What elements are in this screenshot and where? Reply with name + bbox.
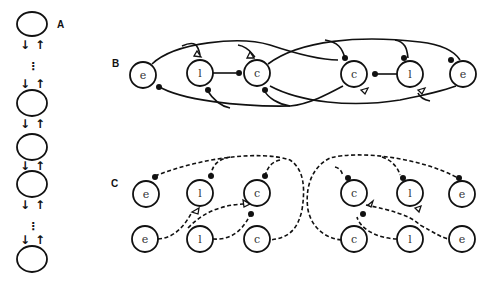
node-c-bottom-5: e [449,226,475,252]
up-arrow-icon: ↑ [35,198,45,212]
panel-b: B e l c c l e [112,39,476,108]
ellipsis-icon: ⋮ [28,220,39,233]
panel-c-label: C [111,178,118,189]
edge [152,41,338,64]
inhibitory-terminal-icon [236,70,242,76]
inhibitory-terminal-icon [205,87,211,93]
svg-text:e: e [142,233,149,246]
diagram-canvas: A ↓ ↑ ⋮ ↓ ↑ ↓ ↑ ↓ ↑ ↓ ↑ ⋮ ↓ ↑ B [0,0,493,281]
panel-a: A ↓ ↑ ⋮ ↓ ↑ ↓ ↑ ↓ ↑ ↓ ↑ ⋮ ↓ ↑ [17,12,64,272]
svg-text:l: l [408,233,412,246]
chain-node-3 [17,134,47,160]
edge [207,90,230,108]
edge [268,39,460,64]
edge [265,160,280,176]
excitatory-terminal-icon [418,88,425,94]
panel-b-label: B [112,58,119,69]
node-b-1: l [187,60,213,86]
inhibitory-terminal-icon [152,174,158,180]
ellipsis-icon: ⋮ [28,60,39,73]
svg-text:l: l [408,68,412,81]
svg-text:e: e [460,68,467,81]
inhibitory-terminal-icon [360,211,366,217]
up-arrow-icon: ↑ [35,77,45,91]
svg-text:c: c [254,233,260,246]
down-arrow-icon: ↓ [20,198,30,212]
edge [395,40,408,58]
node-c-top-4: l [397,180,423,206]
node-c-bottom-1: l [187,226,213,252]
node-b-5: e [450,61,476,87]
excitatory-terminal-icon [192,208,199,214]
edge [158,86,343,106]
node-c-top-2: c [244,180,270,206]
inhibitory-terminal-icon [262,173,268,179]
inhibitory-terminal-icon [262,87,268,93]
edge [307,155,456,240]
inhibitory-terminal-icon [208,173,214,179]
svg-text:e: e [459,233,466,246]
up-arrow-icon: ↑ [35,233,45,247]
inhibitory-terminal-icon [372,71,378,77]
excitatory-terminal-icon [368,201,373,207]
svg-text:l: l [198,187,202,200]
excitatory-terminal-icon [361,88,368,94]
node-c-top-5: e [449,181,475,207]
svg-text:e: e [143,188,150,201]
edge [335,167,343,176]
inhibitory-terminal-icon [401,55,407,61]
excitatory-terminal-icon [415,206,421,212]
edge [155,156,304,240]
svg-text:l: l [198,233,202,246]
svg-text:c: c [351,233,357,246]
node-b-0: e [130,62,156,88]
node-c-top-3: c [341,180,367,206]
node-c-top-1: l [187,180,213,206]
node-c-top-0: e [133,181,159,207]
chain-node-4 [17,171,47,197]
inhibitory-terminal-icon [448,57,454,63]
edge [188,204,243,228]
down-arrow-icon: ↓ [20,117,30,131]
panel-c: C e l c c l e e l c [111,155,475,252]
svg-text:c: c [351,68,357,81]
node-c-bottom-0: e [132,226,158,252]
down-arrow-icon: ↓ [20,38,30,52]
svg-text:e: e [140,69,147,82]
down-arrow-icon: ↓ [20,77,30,91]
svg-text:e: e [459,188,466,201]
svg-text:c: c [254,67,260,80]
node-c-bottom-2: c [244,226,270,252]
node-b-2: c [244,60,270,86]
up-arrow-icon: ↑ [35,117,45,131]
svg-text:l: l [198,67,202,80]
node-c-bottom-4: l [397,226,423,252]
node-b-3: c [341,61,367,87]
chain-node-2 [17,90,47,116]
chain-node-1 [17,12,47,36]
node-c-bottom-3: c [341,226,367,252]
up-arrow-icon: ↑ [35,38,45,52]
svg-text:l: l [408,187,412,200]
edge [382,157,400,175]
chain-node-5 [17,246,47,272]
down-arrow-icon: ↓ [20,233,30,247]
panel-a-label: A [57,19,64,30]
inhibitory-terminal-icon [248,211,254,217]
node-b-4: l [397,61,423,87]
svg-text:c: c [254,187,260,200]
inhibitory-terminal-icon [156,84,162,90]
inhibitory-terminal-icon [456,175,462,181]
inhibitory-terminal-icon [342,55,348,61]
svg-text:c: c [351,187,357,200]
